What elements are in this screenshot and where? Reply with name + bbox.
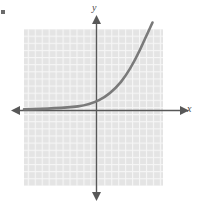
plot-area — [0, 0, 199, 205]
exponential-graph-figure: y x — [0, 0, 199, 205]
y-axis-arrow-up — [92, 15, 101, 24]
y-axis-arrow-down — [92, 192, 101, 201]
x-axis-arrow-left — [11, 106, 20, 115]
x-axis-label: x — [187, 104, 191, 114]
y-axis-label: y — [92, 3, 96, 13]
